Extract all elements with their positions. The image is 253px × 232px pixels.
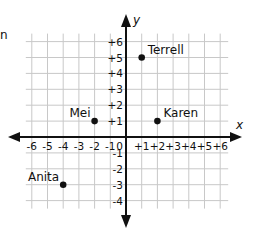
x-axis-label: x xyxy=(235,118,244,132)
y-tick-label: +6 xyxy=(108,36,124,48)
point-label-mei: Mei xyxy=(70,106,91,120)
x-tick-label: -3 xyxy=(74,140,84,152)
y-tick-label: +5 xyxy=(108,52,123,64)
x-tick-label: +3 xyxy=(165,140,180,152)
point-terrell xyxy=(138,54,145,61)
axes: xy xyxy=(8,13,244,228)
y-axis-label: y xyxy=(132,13,141,27)
x-tick-label: +2 xyxy=(150,140,165,152)
point-label-terrell: Terrell xyxy=(147,43,184,57)
y-tick-label: -3 xyxy=(113,179,123,191)
point-label-anita: Anita xyxy=(28,170,59,184)
x-tick-label: +1 xyxy=(134,140,149,152)
point-anita xyxy=(60,181,67,188)
x-axis-arrow-right-icon xyxy=(230,132,242,142)
point-karen xyxy=(154,118,161,125)
point-mei xyxy=(91,118,98,125)
y-tick-label: -2 xyxy=(113,163,123,175)
point-label-karen: Karen xyxy=(163,106,198,120)
y-axis-arrow-up-icon xyxy=(121,14,131,27)
y-axis-arrow-down-icon xyxy=(121,215,131,228)
x-tick-label: -4 xyxy=(58,140,69,152)
x-tick-label: -5 xyxy=(42,140,52,152)
y-tick-label: -4 xyxy=(113,195,124,207)
y-tick-label: +1 xyxy=(108,115,123,127)
coordinate-plane: xy -6-5-4-3-2-1+1+2+3+4+5+60+6+5+4+3+2+1… xyxy=(0,0,253,232)
y-tick-label: +4 xyxy=(108,67,124,79)
y-tick-label: +2 xyxy=(108,99,123,111)
x-tick-label: +5 xyxy=(197,140,212,152)
x-tick-label: -2 xyxy=(89,140,99,152)
x-tick-label: +6 xyxy=(212,140,228,152)
x-tick-label: -6 xyxy=(27,140,38,152)
x-tick-label: +4 xyxy=(181,140,197,152)
x-axis-arrow-left-icon xyxy=(8,132,20,142)
y-tick-label: +3 xyxy=(108,83,123,95)
y-tick-label: -1 xyxy=(113,147,123,159)
